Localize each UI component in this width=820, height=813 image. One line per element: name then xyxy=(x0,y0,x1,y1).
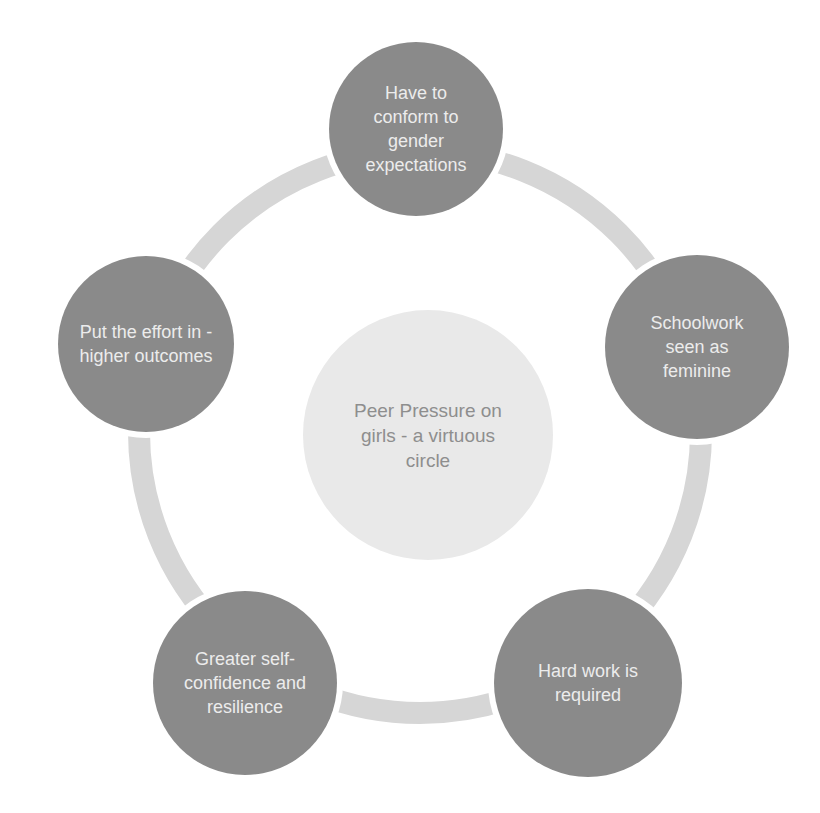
node-hard-work: Hard work is required xyxy=(494,589,682,777)
node-label: Have to conform to gender expectations xyxy=(351,81,481,177)
center-node-label: Peer Pressure on girls - a virtuous circ… xyxy=(353,398,503,473)
node-self-confidence: Greater self-confidence and resilience xyxy=(153,591,337,775)
cycle-diagram: Peer Pressure on girls - a virtuous circ… xyxy=(0,0,820,813)
node-gender-expectations: Have to conform to gender expectations xyxy=(329,42,503,216)
node-label: Put the effort in - higher outcomes xyxy=(76,320,216,368)
node-label: Hard work is required xyxy=(526,659,651,707)
center-node: Peer Pressure on girls - a virtuous circ… xyxy=(303,310,553,560)
node-effort-outcomes: Put the effort in - higher outcomes xyxy=(58,256,234,432)
node-label: Schoolwork seen as feminine xyxy=(637,311,757,383)
node-label: Greater self-confidence and resilience xyxy=(180,647,310,719)
node-schoolwork-feminine: Schoolwork seen as feminine xyxy=(605,255,789,439)
